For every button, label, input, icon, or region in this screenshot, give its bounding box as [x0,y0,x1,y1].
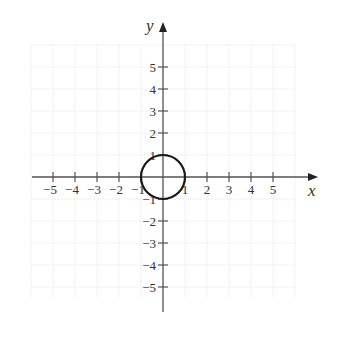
x-tick-label: −3 [87,182,101,197]
x-tick-label: −5 [43,182,57,197]
y-tick-label: 2 [150,126,157,141]
y-tick-label: −4 [142,258,156,273]
y-tick-label: 3 [150,104,157,119]
y-tick-label: 4 [150,82,157,97]
y-tick-label: −5 [142,280,156,295]
x-tick-label: −4 [65,182,79,197]
x-tick-label: −2 [109,182,123,197]
x-tick-label: 3 [226,182,233,197]
y-axis-label: y [144,16,154,35]
y-tick-label: 5 [150,60,157,75]
y-tick-label: −3 [142,236,156,251]
y-axis-arrow-icon [159,22,167,32]
x-tick-label: 4 [248,182,255,197]
x-axis-label: x [307,181,316,200]
x-tick-label: 2 [204,182,211,197]
y-tick-label: −2 [142,214,156,229]
x-tick-label: 5 [270,182,277,197]
x-axis-arrow-icon [308,173,318,181]
coordinate-plane: −5−4−3−2−11234554321−1−2−3−4−5 x y [0,0,340,338]
